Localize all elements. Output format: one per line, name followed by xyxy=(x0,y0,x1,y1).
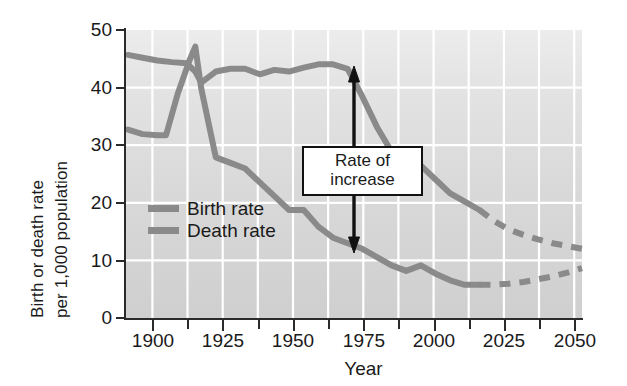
x-tick-label: 1950 xyxy=(258,331,328,350)
y-tick-label: 0 xyxy=(72,308,112,327)
legend-swatch-death-rate xyxy=(148,227,179,234)
legend-label-birth-rate: Birth rate xyxy=(187,199,264,218)
x-axis-tick xyxy=(258,320,260,329)
chart-legend: Birth rate Death rate xyxy=(148,198,276,242)
y-tick-label: 10 xyxy=(72,251,112,270)
x-tick-label: 1900 xyxy=(118,331,188,350)
x-axis-tick xyxy=(469,320,471,329)
x-axis-line xyxy=(124,318,583,320)
x-axis-tick xyxy=(328,320,330,329)
callout-line2: increase xyxy=(310,170,415,189)
y-axis-tick xyxy=(116,29,125,31)
x-tick-label: 2000 xyxy=(399,331,469,350)
y-axis-tick xyxy=(116,87,125,89)
y-axis-tick xyxy=(116,260,125,262)
y-tick-label: 50 xyxy=(72,20,112,39)
callout-line1: Rate of xyxy=(310,151,415,170)
x-tick-label: 2025 xyxy=(469,331,539,350)
y-tick-label: 20 xyxy=(72,193,112,212)
x-tick-label: 1925 xyxy=(188,331,258,350)
x-axis-tick xyxy=(398,320,400,329)
x-axis-tick xyxy=(187,320,189,329)
y-axis-title-line1: Birth or death rate xyxy=(28,180,48,318)
x-axis-title: Year xyxy=(0,358,627,380)
x-axis-title-text: Year xyxy=(244,358,382,379)
y-axis-tick xyxy=(116,144,125,146)
y-axis-line xyxy=(124,28,126,320)
legend-item-death-rate: Death rate xyxy=(148,220,276,241)
legend-label-death-rate: Death rate xyxy=(187,221,276,240)
y-axis-title-line2: per 1,000 population xyxy=(52,161,72,318)
y-axis-tick xyxy=(116,317,125,319)
y-tick-label: 30 xyxy=(72,135,112,154)
x-tick-label: 2050 xyxy=(540,331,610,350)
legend-item-birth-rate: Birth rate xyxy=(148,198,276,219)
x-axis-tick xyxy=(539,320,541,329)
legend-swatch-birth-rate xyxy=(148,205,179,212)
y-axis-tick xyxy=(116,202,125,204)
y-tick-label: 40 xyxy=(72,78,112,97)
rate-of-increase-callout: Rate of increase xyxy=(302,146,423,196)
figure-root: Birth or death rate per 1,000 population… xyxy=(0,0,627,386)
y-axis-title: Birth or death rate per 1,000 population xyxy=(0,0,70,340)
x-tick-label: 1975 xyxy=(329,331,399,350)
